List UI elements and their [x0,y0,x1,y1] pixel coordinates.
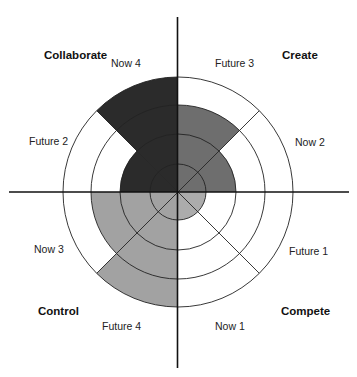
segment-label-now-2: Now 2 [295,136,325,148]
segment-label-future-2: Future 2 [29,135,68,147]
segment-label-now-4: Now 4 [111,57,141,69]
quadrant-label-control: Control [38,305,79,317]
quadrant-label-create: Create [282,49,318,61]
segment-label-future-1: Future 1 [289,245,328,257]
diagonal-divider [178,192,259,273]
segment-label-future-3: Future 3 [215,57,254,69]
maturity-diagram: Collaborate Create Control Compete Now 4… [0,0,357,377]
segment-label-future-4: Future 4 [102,320,141,332]
segment-label-now-1: Now 1 [215,320,245,332]
quadrant-label-collaborate: Collaborate [44,49,107,61]
quadrant-label-compete: Compete [281,305,330,317]
segment-label-now-3: Now 3 [34,243,64,255]
